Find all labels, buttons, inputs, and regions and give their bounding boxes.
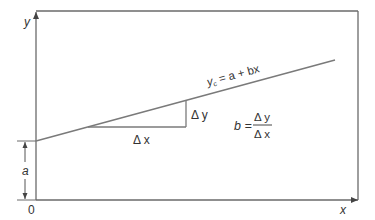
- regression-equation: yc = a + bx: [204, 62, 261, 89]
- slope-formula-denominator: Δ x: [254, 128, 270, 140]
- delta-x-label: Δ x: [133, 133, 150, 147]
- slope-formula-lhs: b =: [234, 119, 252, 133]
- regression-diagram: y x 0 a yc = a + bx Δ y Δ x b = Δ y Δ x: [0, 0, 375, 220]
- origin-label: 0: [28, 203, 35, 217]
- slope-formula-numerator: Δ y: [254, 111, 270, 123]
- intercept-label: a: [22, 164, 29, 178]
- slope-formula: b = Δ y Δ x: [234, 111, 272, 140]
- x-axis-label: x: [339, 203, 347, 217]
- delta-y-label: Δ y: [191, 108, 208, 122]
- y-axis-label: y: [23, 15, 31, 29]
- plot-frame: [36, 11, 358, 200]
